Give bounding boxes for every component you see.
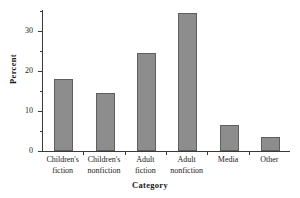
y-tick-label: 20: [25, 67, 33, 75]
bar-chart: Percent 0102030 Children'sfictionChildre…: [0, 0, 300, 198]
x-tick-label-line: nonfiction: [162, 166, 211, 177]
y-tick-label: 30: [25, 27, 33, 35]
y-axis-title: Percent: [8, 39, 18, 99]
plot-area: 0102030: [42, 10, 290, 152]
bar: [96, 93, 115, 151]
bar-slot: [178, 10, 197, 151]
bar-slot: [96, 10, 115, 151]
x-tick-label-line: Other: [245, 155, 294, 166]
bar: [137, 53, 156, 151]
y-tick-minor: [40, 131, 42, 132]
x-axis-tick-labels: Children'sfictionChildren'snonfictionAdu…: [42, 155, 290, 181]
y-tick-minor: [40, 51, 42, 52]
bar: [261, 137, 280, 151]
bar-slot: [54, 10, 73, 151]
y-tick-minor: [40, 11, 42, 12]
y-tick-label: 10: [25, 107, 33, 115]
y-tick-major: 0: [38, 151, 42, 152]
bar-slot: [261, 10, 280, 151]
y-tick-minor: [40, 91, 42, 92]
y-tick-major: 30: [38, 31, 42, 32]
bar-slot: [220, 10, 239, 151]
y-tick-label: 0: [29, 147, 33, 155]
bar: [54, 79, 73, 151]
bar: [220, 125, 239, 151]
bar-slot: [137, 10, 156, 151]
y-tick-major: 20: [38, 71, 42, 72]
x-tick-label: Other: [245, 155, 294, 166]
y-tick-major: 10: [38, 111, 42, 112]
bar: [178, 13, 197, 151]
x-axis-title: Category: [0, 180, 300, 190]
bar-series: [43, 10, 290, 151]
